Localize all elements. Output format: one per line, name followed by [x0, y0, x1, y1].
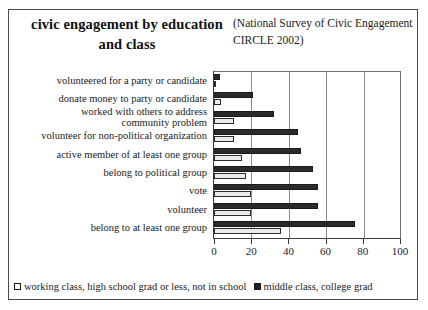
x-axis-tick-label: 20: [231, 245, 271, 257]
category-label: vote: [14, 185, 207, 197]
plot-area: [213, 71, 401, 239]
x-axis-tick-label: 0: [194, 245, 234, 257]
x-axis-tick-label: 80: [343, 245, 383, 257]
bar-middle-class: [214, 148, 301, 154]
chart-header: civic engagement by education and class …: [9, 10, 417, 62]
x-axis-tick-label: 100: [380, 245, 420, 257]
x-axis-tick: [400, 239, 401, 244]
category-label: active member of at least one group: [14, 149, 207, 161]
bar-working-class: [214, 136, 234, 142]
page-title: civic engagement by education and class: [27, 14, 227, 54]
x-axis-tick: [288, 239, 289, 244]
x-axis-tick: [251, 239, 252, 244]
source-note: (National Survey of Civic Engagement CIR…: [233, 15, 423, 49]
bar-middle-class: [214, 129, 298, 135]
legend-item-middle-class: middle class, college grad: [254, 281, 373, 292]
bar-middle-class: [214, 111, 274, 117]
legend-item-working-class: working class, high school grad or less,…: [14, 281, 247, 292]
bar-middle-class: [214, 203, 318, 209]
legend-label-working-class: working class, high school grad or less,…: [24, 281, 247, 292]
chart-legend: working class, high school grad or less,…: [14, 277, 414, 295]
civic-engagement-bar-chart-figure: civic engagement by education and class …: [0, 0, 428, 310]
x-axis-tick: [214, 239, 215, 244]
x-axis-tick-label: 40: [268, 245, 308, 257]
bar-middle-class: [214, 92, 253, 98]
category-label: volunteered for a party or candidate: [14, 75, 207, 87]
bar-working-class: [214, 155, 242, 161]
category-label: belong to at least one group: [14, 222, 207, 234]
category-label: worked with others to addresscommunity p…: [14, 106, 207, 129]
category-axis-labels: volunteered for a party or candidatedona…: [16, 71, 211, 239]
category-label: donate money to party or candidate: [14, 93, 207, 105]
bar-middle-class: [214, 74, 220, 80]
legend-swatch-icon-light: [14, 283, 21, 290]
bar-middle-class: [214, 221, 355, 227]
category-label: volunteer for non-political organization: [14, 130, 207, 142]
x-axis-tick-label: 60: [306, 245, 346, 257]
bar-working-class: [214, 118, 234, 124]
bar-middle-class: [214, 184, 318, 190]
bar-middle-class: [214, 166, 313, 172]
category-label: volunteer: [14, 204, 207, 216]
x-axis-tick: [326, 239, 327, 244]
bar-working-class: [214, 228, 281, 234]
gridline-80: [364, 72, 365, 238]
bar-working-class: [214, 173, 246, 179]
bar-working-class: [214, 191, 251, 197]
x-axis-tick: [363, 239, 364, 244]
legend-label-middle-class: middle class, college grad: [264, 281, 373, 292]
gridline-40: [289, 72, 290, 238]
legend-swatch-icon-dark: [254, 283, 261, 290]
category-label: belong to political group: [14, 167, 207, 179]
gridline-60: [326, 72, 327, 238]
bar-working-class: [214, 210, 251, 216]
bar-working-class: [214, 81, 216, 87]
bar-working-class: [214, 99, 221, 105]
